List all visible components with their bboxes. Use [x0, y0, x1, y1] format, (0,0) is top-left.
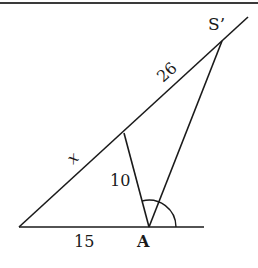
- label-15: 15: [74, 232, 94, 251]
- label-x: x: [63, 148, 82, 168]
- label-s-prime: S’: [208, 14, 225, 34]
- geometry-diagram: S’ 26 x 10 15 A: [0, 0, 258, 268]
- label-10: 10: [110, 171, 130, 190]
- hypotenuse-line: [19, 17, 248, 227]
- label-a: A: [136, 232, 150, 251]
